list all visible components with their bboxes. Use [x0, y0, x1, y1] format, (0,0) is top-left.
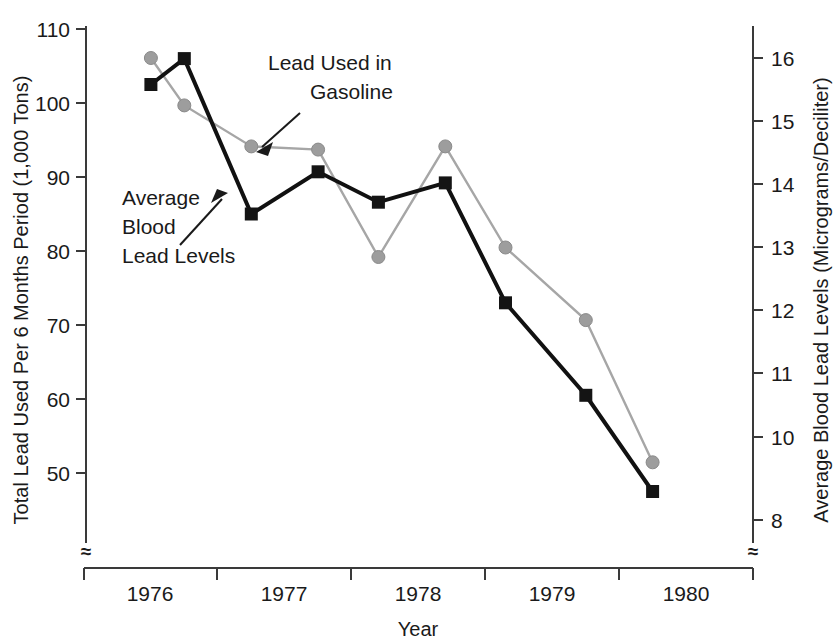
right-ticklabel-8: 8 [771, 509, 783, 532]
left-ticklabel-110: 110 [37, 18, 70, 41]
right-ticklabel-13: 13 [771, 236, 794, 259]
right-ticklabel-12: 12 [771, 299, 794, 322]
plot-area [144, 52, 659, 499]
annotation-gasoline-line2: Gasoline [310, 80, 393, 103]
x-ticklabel-1976: 1976 [127, 582, 174, 605]
left-ticklabel-70: 70 [47, 314, 70, 337]
x-axis-title: Year [398, 618, 439, 640]
series-markers-average-blood-lead-levels [144, 52, 659, 498]
left-axis: 110 100 90 80 70 60 50 ≈ Total Lead Used… [10, 18, 92, 562]
lead-levels-line-chart: 110 100 90 80 70 60 50 ≈ Total Lead Used… [0, 0, 835, 644]
left-ticklabel-80: 80 [47, 240, 70, 263]
data-point-blood-lead-0 [144, 78, 157, 91]
right-ticklabel-14: 14 [771, 173, 795, 196]
right-ticklabel-15: 15 [771, 110, 794, 133]
data-point-blood-lead-6 [499, 296, 512, 309]
data-point-gasoline-0 [144, 52, 157, 65]
right-ticklabel-10: 10 [771, 426, 794, 449]
data-point-blood-lead-5 [439, 176, 452, 189]
right-ticklabel-11: 11 [771, 362, 793, 385]
data-point-gasoline-3 [312, 143, 325, 156]
annotation-blood-line1: Average [122, 186, 200, 209]
data-point-gasoline-7 [579, 314, 592, 327]
x-ticklabel-1979: 1979 [529, 582, 576, 605]
data-point-blood-lead-2 [245, 208, 258, 221]
annotation-average-blood-lead-levels: Average Blood Lead Levels [122, 186, 235, 267]
right-ticklabel-16: 16 [771, 47, 794, 70]
x-ticklabel-1978: 1978 [395, 582, 442, 605]
left-axis-break-symbol: ≈ [81, 541, 92, 562]
data-point-gasoline-5 [439, 140, 452, 153]
right-axis-break-symbol: ≈ [748, 541, 759, 562]
data-point-gasoline-8 [646, 456, 659, 469]
x-ticklabel-1977: 1977 [261, 582, 308, 605]
data-point-gasoline-1 [178, 99, 191, 112]
chart-container: 110 100 90 80 70 60 50 ≈ Total Lead Used… [0, 0, 835, 644]
x-axis: 1976 1977 1978 1979 1980 Year [84, 568, 753, 640]
x-ticklabel-1980: 1980 [663, 582, 710, 605]
left-axis-title: Total Lead Used Per 6 Months Period (1,0… [10, 76, 32, 525]
annotation-blood-line3: Lead Levels [122, 244, 235, 267]
left-ticklabel-50: 50 [47, 462, 70, 485]
left-ticklabel-100: 100 [35, 92, 70, 115]
right-axis: 16 15 14 13 12 11 10 8 ≈ Average Blood L… [748, 26, 832, 562]
data-point-gasoline-6 [499, 241, 512, 254]
right-axis-title: Average Blood Lead Levels (Micrograms/De… [810, 77, 832, 522]
data-point-blood-lead-8 [646, 485, 659, 498]
annotation-lead-used-in-gasoline: Lead Used in Gasoline [256, 51, 393, 156]
data-point-blood-lead-3 [312, 165, 325, 178]
annotation-blood-line2: Blood [122, 215, 176, 238]
data-point-blood-lead-1 [178, 52, 191, 65]
left-ticklabel-90: 90 [47, 166, 70, 189]
data-point-gasoline-2 [245, 140, 258, 153]
annotation-gasoline-line1: Lead Used in [268, 51, 392, 74]
data-point-gasoline-4 [372, 251, 385, 264]
annotation-gasoline-arrow-line [262, 113, 300, 147]
data-point-blood-lead-4 [372, 196, 385, 209]
data-point-blood-lead-7 [579, 389, 592, 402]
series-line-average-blood-lead-levels [151, 59, 653, 492]
left-ticklabel-60: 60 [47, 388, 70, 411]
